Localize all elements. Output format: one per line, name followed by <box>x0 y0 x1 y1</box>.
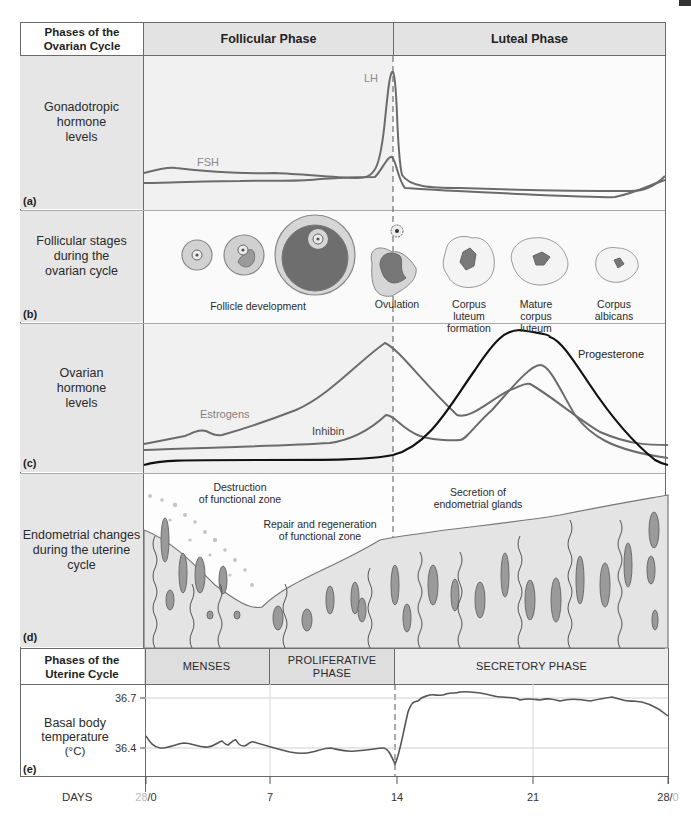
annotation-repair-l2: of functional zone <box>279 530 361 542</box>
annotation-secretion-l2: endometrial glands <box>434 498 523 510</box>
temperature-curve <box>146 692 668 764</box>
lh-curve <box>144 72 665 191</box>
follicle-illustrations <box>182 215 638 296</box>
primordial-follicle <box>182 240 212 270</box>
secondary-follicle <box>224 235 264 275</box>
gonadotropic-chart <box>144 72 665 198</box>
tertiary-follicle <box>275 215 355 295</box>
diagram-graphics: FSH LH <box>0 0 691 818</box>
stage-ovulation: Ovulation <box>375 298 420 310</box>
stage-mature-corpus-luteum: Mature corpus luteum <box>512 298 560 334</box>
stage-corpus-luteum-formation: Corpus luteum formation <box>445 298 493 334</box>
endometrium-illustration <box>144 494 668 648</box>
temperature-chart <box>140 684 668 784</box>
progesterone-label: Progesterone <box>578 348 644 360</box>
annotation-repair-l1: Repair and regeneration <box>263 518 376 530</box>
mature-corpus-luteum <box>511 238 568 285</box>
corner-marker <box>679 0 691 6</box>
stage-corpus-albicans: Corpus albicans <box>588 298 640 322</box>
corpus-luteum-formation <box>443 237 494 288</box>
fsh-label: FSH <box>197 156 219 168</box>
corpus-albicans <box>596 248 639 283</box>
stage-follicle-development: Follicle development <box>210 300 306 312</box>
estrogens-label: Estrogens <box>200 408 250 420</box>
annotation-destruction-l1: Destruction <box>213 481 266 493</box>
inhibin-label: Inhibin <box>312 425 344 437</box>
lh-label: LH <box>364 72 378 84</box>
x-axis-ticks <box>146 776 668 784</box>
annotation-destruction-l2: of functional zone <box>199 493 281 505</box>
ovulation-follicle <box>371 225 416 296</box>
annotation-secretion-l1: Secretion of <box>450 486 506 498</box>
